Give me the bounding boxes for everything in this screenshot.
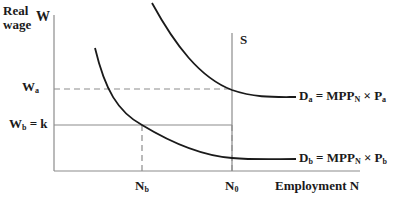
demand-curve-da — [152, 3, 296, 97]
x-axis-label: Employment N — [275, 179, 359, 192]
wa-label: Wa — [22, 80, 39, 95]
y-axis-label-line2: wage — [3, 18, 31, 32]
supply-label: S — [240, 33, 247, 46]
y-axis-label: Real wage — [3, 4, 31, 32]
nb-label: Nb — [135, 179, 149, 194]
y-axis-label-line1: Real — [3, 4, 31, 18]
demand-db-label: Db = MPPN × Pb — [299, 151, 387, 166]
wb-label: Wb = k — [9, 117, 48, 132]
demand-da-label: Da = MPPN × Pa — [299, 89, 386, 104]
n0-label: N0 — [225, 179, 238, 194]
y-axis-symbol: W — [36, 10, 50, 24]
